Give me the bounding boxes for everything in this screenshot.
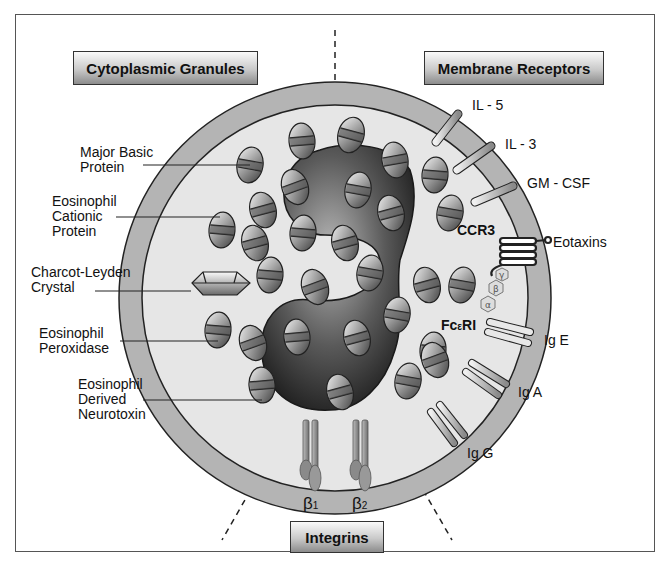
membrane-receptors-header: Membrane Receptors <box>424 51 604 85</box>
label-beta2: β2 <box>352 496 367 513</box>
gamma-subunit-label: γ <box>499 270 505 280</box>
label-il3: IL - 3 <box>505 137 536 152</box>
charcot-leyden-crystal <box>192 272 250 295</box>
label-ig-g: Ig G <box>467 446 493 461</box>
label-ig-e: Ig E <box>544 333 569 348</box>
label-ccr3: CCR3 <box>457 223 495 238</box>
label-ig-a: Ig A <box>518 385 542 400</box>
label-il5: IL - 5 <box>472 98 503 113</box>
alpha-subunit-label: α <box>485 300 491 310</box>
label-charcot-leyden-crystal: Charcot-Leyden Crystal <box>31 265 131 295</box>
label-beta1: β1 <box>303 496 318 513</box>
cytoplasmic-granules-header: Cytoplasmic Granules <box>73 51 258 85</box>
label-eotaxins: Eotaxins <box>553 235 607 250</box>
label-major-basic-protein: Major Basic Protein <box>80 145 153 175</box>
label-eosinophil-cationic-protein: Eosinophil Cationic Protein <box>52 194 117 239</box>
label-eosinophil-derived-neurotoxin: Eosinophil Derived Neurotoxin <box>78 377 146 422</box>
beta-subunit-label: β <box>493 284 499 294</box>
integrins-header: Integrins <box>290 521 384 553</box>
label-eosinophil-peroxidase: Eosinophil Peroxidase <box>39 326 109 356</box>
label-gm-csf: GM - CSF <box>527 176 590 191</box>
label-fc-epsilon-ri: FcεRI <box>441 318 476 334</box>
